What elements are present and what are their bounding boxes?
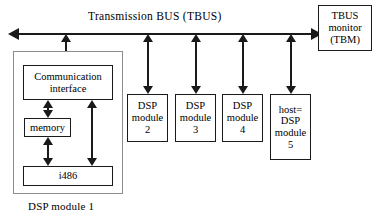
transmission-bus-line — [12, 33, 322, 35]
communication-interface-line-2: interface — [50, 83, 87, 95]
dsp-module-3-box[interactable]: DSP module 3 — [175, 94, 216, 142]
dsp-module-3-line-1: DSP — [186, 100, 205, 112]
arrow-down-icon — [143, 86, 153, 94]
dsp-module-4-line-3: 4 — [240, 124, 245, 136]
dsp-module-2-line-3: 2 — [145, 124, 150, 136]
i486-box[interactable]: i486 — [23, 166, 113, 186]
connector-shaft — [290, 39, 292, 89]
host-dsp-module-5-line-2: DSP — [281, 115, 300, 127]
bus-title: Transmission BUS (TBUS) — [88, 10, 222, 22]
host-dsp-module-5-line-3: module — [275, 127, 307, 139]
host-dsp-module-5-line-4: 5 — [288, 139, 293, 151]
communication-interface-box[interactable]: Communication interface — [23, 65, 113, 100]
connector-bus-to-module-3 — [190, 34, 201, 94]
arrow-down-icon — [286, 86, 296, 94]
tbus-monitor-line-3: (TBM) — [330, 34, 360, 46]
i486-label: i486 — [59, 170, 78, 182]
connector-comm-to-i486 — [86, 100, 97, 166]
arrow-down-icon — [43, 110, 53, 118]
dsp-module-4-box[interactable]: DSP module 4 — [222, 94, 263, 142]
host-dsp-module-5-line-1: host= — [279, 104, 302, 116]
connector-bus-to-module-2 — [142, 34, 153, 94]
connector-comm-to-memory — [42, 100, 53, 118]
connector-shaft — [91, 105, 93, 161]
connector-memory-to-i486 — [42, 137, 53, 166]
connector-bus-to-module-4 — [237, 34, 248, 94]
diagram-canvas: Transmission BUS (TBUS) TBUS monitor (TB… — [0, 0, 376, 222]
tbus-monitor-line-2: monitor — [328, 22, 361, 34]
dsp-module-3-line-3: 3 — [193, 124, 198, 136]
tbus-monitor-line-1: TBUS — [332, 10, 359, 22]
tbus-monitor-box[interactable]: TBUS monitor (TBM) — [318, 5, 372, 51]
dsp-module-4-line-2: module — [227, 112, 259, 124]
dsp-module-3-line-2: module — [180, 112, 212, 124]
dsp-module-2-line-1: DSP — [138, 100, 157, 112]
connector-bus-to-module-5 — [285, 34, 296, 94]
connector-shaft — [147, 39, 149, 89]
arrow-down-icon — [238, 86, 248, 94]
dsp-module-1-caption: DSP module 1 — [28, 200, 94, 212]
arrow-down-icon — [87, 158, 97, 166]
host-dsp-module-5-box[interactable]: host= DSP module 5 — [270, 94, 311, 160]
connector-shaft — [195, 39, 197, 89]
dsp-module-2-line-2: module — [132, 112, 164, 124]
communication-interface-line-1: Communication — [34, 71, 102, 83]
memory-box[interactable]: memory — [24, 118, 71, 137]
bus-left-arrow-icon — [8, 28, 19, 40]
connector-shaft — [242, 39, 244, 89]
arrow-down-icon — [43, 158, 53, 166]
dsp-module-2-box[interactable]: DSP module 2 — [127, 94, 168, 142]
memory-label: memory — [30, 122, 65, 134]
arrow-down-icon — [191, 86, 201, 94]
dsp-module-4-line-1: DSP — [233, 100, 252, 112]
